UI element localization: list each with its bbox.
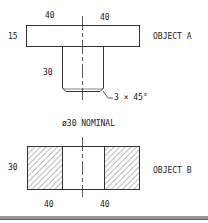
object-a-dim-right: 40 [100, 13, 110, 22]
chamfer-leader [103, 91, 113, 98]
object-b-left-section [28, 147, 63, 190]
object-a-dim-flange: 15 [8, 32, 18, 41]
bottom-divider [0, 216, 208, 220]
object-a-stem [63, 47, 104, 92]
object-a-dim-stem: 30 [43, 68, 53, 77]
object-b-dim-right: 40 [100, 200, 110, 209]
object-b-label: OBJECT B [153, 166, 192, 175]
object-b-dim-left: 40 [44, 200, 54, 209]
object-a-label: OBJECT A [153, 32, 192, 41]
object-a: 40 40 15 30 3 × 45° OBJECT A [8, 11, 192, 102]
object-b: 30 40 40 OBJECT B [8, 137, 192, 209]
chamfer-note: 3 × 45° [114, 93, 148, 102]
object-b-dim-height: 30 [8, 163, 18, 172]
object-b-right-section [105, 147, 140, 190]
nominal-note: ø30 NOMINAL [62, 119, 115, 128]
drawing-canvas: 40 40 15 30 3 × 45° OBJECT A ø30 NOMINAL… [0, 0, 208, 223]
object-a-flange [27, 26, 140, 47]
object-a-dim-left: 40 [45, 11, 55, 20]
